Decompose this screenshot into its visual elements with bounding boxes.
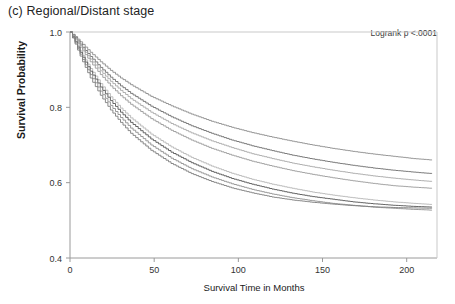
survival-curve-line <box>70 32 432 205</box>
y-axis-ticks: 0.40.60.81.0 <box>49 28 70 264</box>
survival-curve-line <box>70 32 432 207</box>
plot-area: 0.40.60.81.0 050100150200 <box>0 0 455 304</box>
y-tick-label: 1.0 <box>49 28 62 38</box>
survival-curve-line <box>70 32 432 182</box>
y-tick-label: 0.6 <box>49 178 62 188</box>
x-tick-label: 0 <box>67 265 72 275</box>
x-tick-label: 200 <box>399 265 414 275</box>
x-tick-label: 150 <box>315 265 330 275</box>
x-tick-label: 100 <box>231 265 246 275</box>
survival-curve-line <box>70 32 432 160</box>
survival-curves <box>70 32 432 210</box>
axis-frame <box>70 32 437 258</box>
survival-curve-figure: (c) Regional/Distant stage Logrank p <.0… <box>0 0 455 304</box>
x-tick-label: 50 <box>149 265 159 275</box>
y-tick-label: 0.4 <box>49 254 62 264</box>
survival-curve-line <box>70 32 432 174</box>
x-axis-ticks: 050100150200 <box>67 258 414 275</box>
y-tick-label: 0.8 <box>49 103 62 113</box>
